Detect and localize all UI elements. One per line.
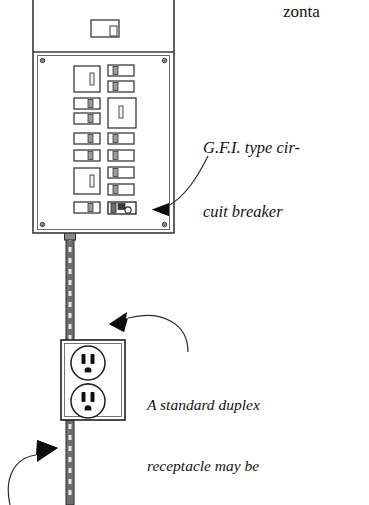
breaker-right-1-single[interactable] <box>108 65 134 76</box>
gfi-test-button[interactable] <box>125 207 131 213</box>
breaker-right-2-single[interactable] <box>108 81 134 92</box>
leader-conduit-callout <box>8 440 58 505</box>
breaker-right-5-single[interactable] <box>108 150 134 161</box>
breaker-left-2-single[interactable] <box>74 98 100 109</box>
breaker-right-6-single[interactable] <box>108 167 134 178</box>
breaker-left-6-double[interactable] <box>74 168 100 194</box>
receptacle-outlet-bottom[interactable] <box>71 384 105 418</box>
duplex-receptacle[interactable] <box>61 340 125 420</box>
breaker-right-3-double[interactable] <box>108 98 136 128</box>
breaker-left-5-single[interactable] <box>74 150 100 161</box>
main-breaker[interactable] <box>91 20 119 37</box>
breaker-left-4-single[interactable] <box>74 133 100 144</box>
callout-receptacle-line-2: receptacle may be <box>147 456 266 476</box>
electrical-panel-diagram: zonta G.F.I. type cir- cuit breaker A st… <box>0 0 369 505</box>
breaker-column-left <box>74 66 100 213</box>
breaker-left-1-double[interactable] <box>74 66 100 92</box>
top-text-fragment: zonta <box>283 2 320 22</box>
breaker-right-7-single[interactable] <box>108 184 134 195</box>
callout-receptacle-line-1: A standard duplex <box>147 395 266 415</box>
breaker-left-7-single[interactable] <box>74 202 100 213</box>
receptacle-outlet-top[interactable] <box>71 346 105 380</box>
callout-gfi-breaker: G.F.I. type cir- cuit breaker <box>203 94 300 266</box>
breaker-right-4-single[interactable] <box>108 133 134 144</box>
callout-gfi-line-2: cuit breaker <box>203 201 300 222</box>
callout-receptacle: A standard duplex receptacle may be used… <box>147 355 266 505</box>
breaker-left-3-single[interactable] <box>74 113 100 124</box>
callout-gfi-line-1: G.F.I. type cir- <box>203 137 300 158</box>
breaker-column-right <box>108 65 136 214</box>
gfi-circuit-breaker[interactable] <box>108 202 136 214</box>
